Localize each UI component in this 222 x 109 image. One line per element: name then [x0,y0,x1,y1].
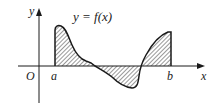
origin-label: O [26,69,35,83]
interval-end-label: b [167,69,173,83]
function-area-diagram: y = f(x) y x O a b [0,0,222,109]
function-label: y = f(x) [71,9,112,24]
x-axis-label: x [200,69,207,83]
y-axis-label: y [28,4,35,18]
interval-start-label: a [51,69,57,83]
y-axis-arrow-icon [36,8,42,16]
